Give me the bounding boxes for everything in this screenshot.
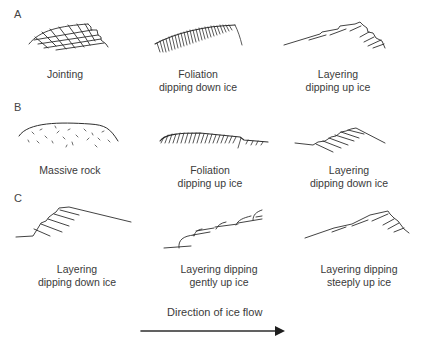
caption-b1: Massive rock bbox=[0, 164, 140, 177]
jointing-sketch bbox=[29, 24, 108, 50]
layering-down-ice-c-sketch bbox=[16, 207, 131, 237]
foliation-down-ice-sketch bbox=[155, 25, 242, 52]
foliation-up-ice-sketch bbox=[160, 133, 268, 148]
arrowhead-icon bbox=[275, 326, 285, 336]
foliation-hatching bbox=[157, 25, 232, 52]
layering-gently-up-ice-sketch bbox=[164, 210, 262, 248]
caption-a1: Jointing bbox=[0, 68, 135, 81]
caption-c1: Layering dipping down ice bbox=[7, 263, 147, 289]
caption-c2: Layering dipping gently up ice bbox=[149, 263, 289, 289]
layering-down-ice-b-sketch bbox=[295, 128, 385, 152]
caption-a2: Foliation dipping down ice bbox=[128, 68, 268, 94]
foliation-up-hatching bbox=[161, 133, 263, 145]
ice-flow-label: Direction of ice flow bbox=[130, 306, 330, 318]
caption-b2: Foliation dipping up ice bbox=[140, 164, 280, 190]
layering-steeply-up-ice-sketch bbox=[305, 211, 409, 238]
caption-b3: Layering dipping down ice bbox=[279, 164, 419, 190]
ice-flow-arrow bbox=[141, 326, 285, 336]
layering-up-ice-sketch bbox=[284, 22, 385, 48]
caption-c3: Layering dipping steeply up ice bbox=[289, 263, 421, 289]
massive-rock-sketch bbox=[19, 123, 118, 147]
caption-a3: Layering dipping up ice bbox=[268, 68, 408, 94]
